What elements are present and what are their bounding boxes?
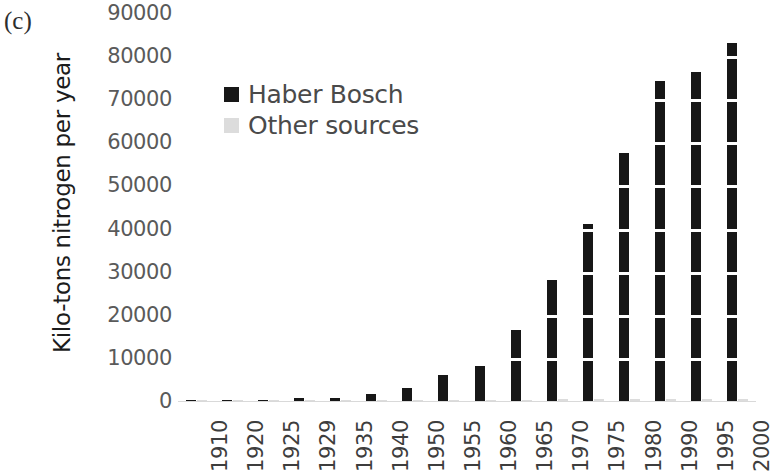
- x-axis-tick-label: 1975: [605, 402, 629, 472]
- bar-other-sources[interactable]: [522, 400, 532, 401]
- bar-other-sources[interactable]: [269, 400, 279, 401]
- legend-label-other-sources: Other sources: [248, 113, 419, 138]
- gridline: [178, 142, 756, 145]
- x-axis-tick-label: 1940: [389, 402, 413, 472]
- x-axis-tick-label: 1960: [497, 402, 521, 472]
- bar-haber-bosch[interactable]: [186, 400, 196, 401]
- bar-haber-bosch[interactable]: [366, 394, 376, 401]
- gridline: [178, 272, 756, 275]
- x-axis-tick-labels: 1910192019251929193519401950195519601965…: [178, 404, 756, 474]
- bar-other-sources[interactable]: [377, 400, 387, 401]
- x-axis-tick-label: 1935: [353, 402, 377, 472]
- gridline: [178, 229, 756, 232]
- gridline: [178, 13, 756, 16]
- bar-haber-bosch[interactable]: [727, 43, 737, 401]
- bar-group[interactable]: [359, 13, 395, 401]
- bar-other-sources[interactable]: [558, 399, 568, 401]
- x-axis-tick-label: 1910: [208, 402, 232, 472]
- x-axis-tick-label: 2000: [750, 402, 774, 472]
- y-axis-tick-label: 90000: [92, 3, 172, 24]
- bar-group[interactable]: [395, 13, 431, 401]
- bar-group[interactable]: [648, 13, 684, 401]
- bar-haber-bosch[interactable]: [691, 72, 701, 401]
- bar-group[interactable]: [539, 13, 575, 401]
- x-axis-tick-label: 1929: [316, 402, 340, 472]
- legend-label-haber-bosch: Haber Bosch: [248, 82, 403, 107]
- x-axis-tick-label: 1920: [244, 402, 268, 472]
- y-axis-tick-label: 20000: [92, 304, 172, 325]
- bar-haber-bosch[interactable]: [619, 153, 629, 401]
- bar-other-sources[interactable]: [738, 399, 748, 401]
- bar-other-sources[interactable]: [413, 400, 423, 401]
- bar-other-sources[interactable]: [449, 400, 459, 401]
- bar-haber-bosch[interactable]: [222, 400, 232, 401]
- y-axis-tick-label: 0: [92, 391, 172, 412]
- legend-item-other-sources[interactable]: Other sources: [224, 110, 419, 141]
- bar-other-sources[interactable]: [630, 399, 640, 401]
- x-axis-tick-label: 1955: [461, 402, 485, 472]
- plot-area: [178, 13, 756, 401]
- bar-haber-bosch[interactable]: [402, 388, 412, 401]
- bar-group[interactable]: [178, 13, 214, 401]
- bar-group[interactable]: [612, 13, 648, 401]
- x-axis-tick-label: 1965: [533, 402, 557, 472]
- gridline: [178, 358, 756, 361]
- y-axis-tick-label: 30000: [92, 261, 172, 282]
- x-axis-tick-label: 1995: [714, 402, 738, 472]
- x-axis-tick-label: 1950: [425, 402, 449, 472]
- bar-group[interactable]: [720, 13, 756, 401]
- legend-item-haber-bosch[interactable]: Haber Bosch: [224, 79, 419, 110]
- bar-group[interactable]: [575, 13, 611, 401]
- bar-group[interactable]: [503, 13, 539, 401]
- x-axis-tick-label: 1980: [642, 402, 666, 472]
- bar-haber-bosch[interactable]: [258, 400, 268, 401]
- bar-group[interactable]: [323, 13, 359, 401]
- bar-haber-bosch[interactable]: [547, 280, 557, 401]
- x-axis-tick-label: 1925: [280, 402, 304, 472]
- bar-other-sources[interactable]: [341, 400, 351, 401]
- y-axis-tick-labels: 9000080000700006000050000400003000020000…: [92, 0, 172, 410]
- bar-other-sources[interactable]: [666, 399, 676, 401]
- square-marker-icon: [224, 118, 239, 133]
- square-marker-icon: [224, 87, 239, 102]
- bar-haber-bosch[interactable]: [511, 330, 521, 401]
- bar-group[interactable]: [684, 13, 720, 401]
- bar-haber-bosch[interactable]: [438, 375, 448, 401]
- x-axis-tick-label: 1990: [678, 402, 702, 472]
- bar-group[interactable]: [467, 13, 503, 401]
- gridline: [178, 315, 756, 318]
- bar-haber-bosch[interactable]: [655, 81, 665, 401]
- gridline: [178, 185, 756, 188]
- y-axis-tick-label: 70000: [92, 89, 172, 110]
- chart-legend: Haber Bosch Other sources: [224, 79, 419, 141]
- bar-other-sources[interactable]: [305, 400, 315, 401]
- bar-other-sources[interactable]: [594, 399, 604, 401]
- y-axis-tick-label: 10000: [92, 347, 172, 368]
- bar-group[interactable]: [286, 13, 322, 401]
- bar-haber-bosch[interactable]: [294, 398, 304, 401]
- bar-other-sources[interactable]: [233, 400, 243, 401]
- panel-label: (c): [4, 8, 32, 33]
- gridline: [178, 56, 756, 59]
- bar-other-sources[interactable]: [197, 400, 207, 401]
- y-axis-tick-label: 60000: [92, 132, 172, 153]
- y-axis-tick-label: 80000: [92, 46, 172, 67]
- bar-other-sources[interactable]: [702, 399, 712, 401]
- bar-group[interactable]: [250, 13, 286, 401]
- x-axis-baseline: [178, 401, 756, 402]
- bar-other-sources[interactable]: [486, 400, 496, 401]
- y-axis-title: Kilo-tons nitrogen per year: [49, 3, 75, 403]
- bar-haber-bosch[interactable]: [330, 398, 340, 401]
- bar-group[interactable]: [214, 13, 250, 401]
- bar-haber-bosch[interactable]: [583, 224, 593, 401]
- x-axis-tick-label: 1970: [569, 402, 593, 472]
- y-axis-tick-label: 40000: [92, 218, 172, 239]
- bar-haber-bosch[interactable]: [475, 366, 485, 401]
- bar-group[interactable]: [431, 13, 467, 401]
- y-axis-tick-label: 50000: [92, 175, 172, 196]
